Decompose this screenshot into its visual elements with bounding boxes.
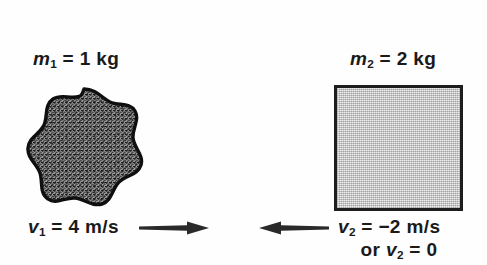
velocity2-label: v2 = −2 m/s (338, 216, 440, 238)
velocity2-arrow-left-icon (257, 219, 329, 237)
mass1-label: m1 = 1 kg (33, 48, 119, 70)
velocity2-alt-subscript: 2 (397, 248, 404, 261)
velocity1-subscript: 1 (39, 225, 46, 238)
mass1-value: = 1 kg (63, 48, 120, 69)
mass2-value: = 2 kg (380, 48, 437, 69)
square-block-shape (334, 85, 463, 211)
velocity1-arrow-right-icon (139, 219, 209, 237)
velocity1-value: = 4 m/s (51, 216, 119, 237)
mass2-symbol: m (350, 48, 367, 69)
mass2-label: m2 = 2 kg (350, 48, 436, 70)
physics-collision-diagram: m1 = 1 kg v1 = 4 m/s m2 (0, 0, 487, 265)
velocity2-alt-value: = 0 (409, 239, 437, 260)
velocity2-value: = −2 m/s (361, 216, 440, 237)
velocity2-subscript: 2 (349, 225, 356, 238)
velocity1-label: v1 = 4 m/s (28, 216, 119, 238)
mass1-subscript: 1 (50, 57, 57, 70)
velocity2-alt-symbol: v (386, 239, 397, 260)
mass2-subscript: 2 (367, 57, 374, 70)
irregular-blob-shape (26, 86, 146, 208)
velocity1-symbol: v (28, 216, 39, 237)
velocity2-alt-prefix: or (361, 239, 386, 260)
velocity2-symbol: v (338, 216, 349, 237)
mass1-symbol: m (33, 48, 50, 69)
velocity2-alternate-label: or v2 = 0 (338, 239, 460, 261)
